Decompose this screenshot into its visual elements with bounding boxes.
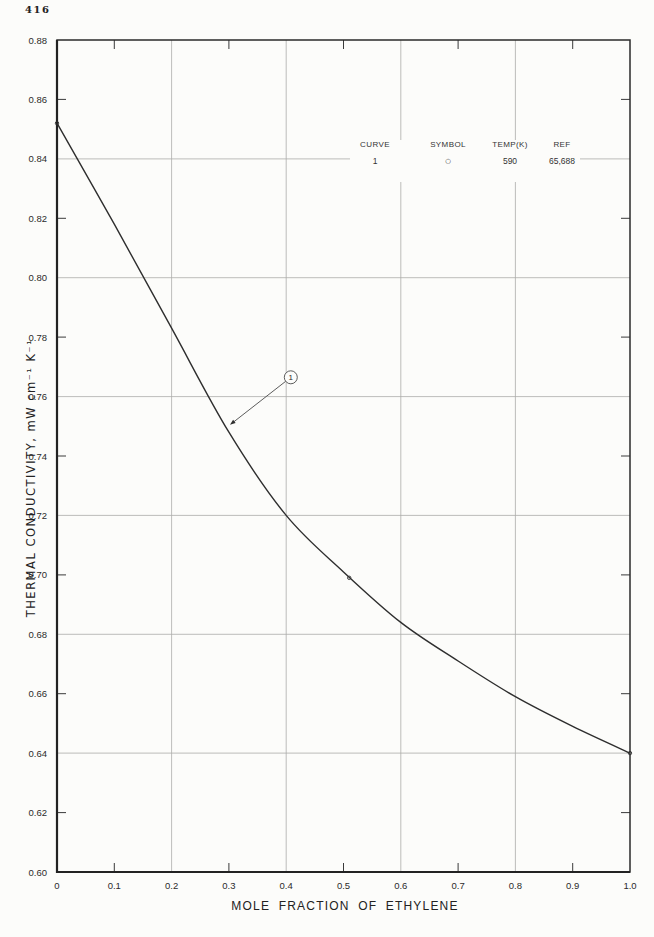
legend-value-ref: 65,688 <box>549 156 575 166</box>
y-axis-title: THERMAL CONDUCTIVITY, mW cm⁻¹ K⁻¹ <box>24 339 38 618</box>
x-axis-title: MOLE FRACTION OF ETHYLENE <box>231 899 458 913</box>
x-tick-label: 0.9 <box>566 880 579 891</box>
x-tick-label: 0.8 <box>509 880 522 891</box>
y-tick-label: 0.66 <box>29 688 48 699</box>
legend-value-temp: 590 <box>492 156 528 166</box>
x-tick-label: 0.5 <box>337 880 350 891</box>
curve-line <box>57 123 630 753</box>
x-tick-label: 0.7 <box>451 880 464 891</box>
legend-col-ref: REF 65,688 <box>549 140 575 166</box>
y-tick-label: 0.80 <box>29 272 48 283</box>
x-tick-label: 0.1 <box>108 880 121 891</box>
y-tick-label: 0.82 <box>29 213 48 224</box>
y-tick-label: 0.64 <box>29 748 48 759</box>
x-tick-label: 0 <box>54 880 59 891</box>
y-tick-label: 0.62 <box>29 807 48 818</box>
legend-symbol-circle-icon: ○ <box>430 157 466 165</box>
legend: CURVE 1 SYMBOL ○ TEMP(K) 590 REF 65,688 <box>350 140 580 182</box>
x-tick-label: 0.4 <box>280 880 293 891</box>
y-tick-label: 0.88 <box>29 35 48 46</box>
y-tick-label: 0.86 <box>29 94 48 105</box>
chart-page: 416 0.600.620.640.660.680.700.720.740.76… <box>0 0 654 937</box>
legend-col-symbol: SYMBOL ○ <box>430 140 466 165</box>
legend-value-curve: 1 <box>360 156 390 166</box>
legend-col-curve: CURVE 1 <box>360 140 390 166</box>
x-tick-label: 0.6 <box>394 880 407 891</box>
x-tick-label: 0.3 <box>222 880 235 891</box>
y-tick-label: 0.68 <box>29 629 48 640</box>
y-tick-label: 0.84 <box>29 153 48 164</box>
legend-header-symbol: SYMBOL <box>430 140 466 149</box>
x-tick-label: 1.0 <box>623 880 636 891</box>
legend-header-ref: REF <box>549 140 575 149</box>
legend-header-temp: TEMP(K) <box>492 140 528 149</box>
annotation-label: 1 <box>289 373 294 382</box>
annotation-leader-line <box>233 381 286 422</box>
y-tick-label: 0.60 <box>29 867 48 878</box>
legend-col-temp: TEMP(K) 590 <box>492 140 528 166</box>
x-tick-label: 0.2 <box>165 880 178 891</box>
legend-header-curve: CURVE <box>360 140 390 149</box>
